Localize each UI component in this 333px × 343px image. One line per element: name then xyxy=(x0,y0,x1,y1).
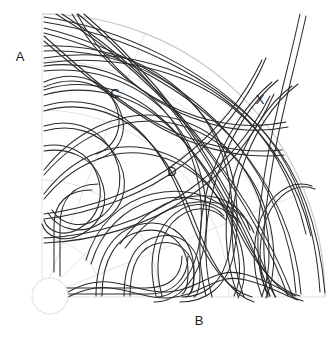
label-a: A xyxy=(16,49,25,64)
figure-canvas: A B C D X xyxy=(0,0,333,343)
tangle-diagram: A B C D X xyxy=(0,0,333,343)
label-x: X xyxy=(256,92,265,107)
label-d: D xyxy=(167,164,176,179)
label-b: B xyxy=(195,313,204,328)
label-c: C xyxy=(110,86,119,101)
basepoint-marker xyxy=(32,278,68,314)
